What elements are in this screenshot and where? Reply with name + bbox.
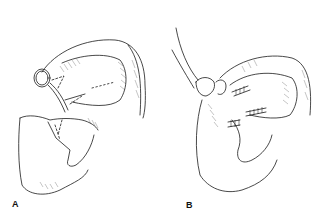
panel-label-b: B xyxy=(186,200,193,210)
illustration-panel-a xyxy=(0,0,162,223)
figure-panel-b: B xyxy=(162,0,325,223)
panel-label-a: A xyxy=(12,199,19,209)
illustration-panel-b xyxy=(162,0,325,223)
figure-panel-a: A xyxy=(0,0,162,223)
